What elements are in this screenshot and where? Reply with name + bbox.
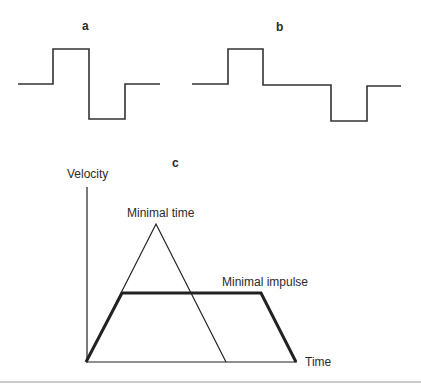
panel-a-force-profile [18,49,160,119]
panel-c-label: c [172,156,179,170]
velocity-axis-label: Velocity [67,167,108,181]
panel-b-label: b [276,20,283,34]
panel-a-label: a [82,19,89,33]
minimal-time-label: Minimal time [127,206,194,220]
figure-canvas [0,0,421,384]
minimal-impulse-label: Minimal impulse [222,275,308,289]
time-axis-label: Time [305,355,331,369]
panel-b-force-profile [192,49,401,121]
minimal-impulse-curve [86,293,296,362]
